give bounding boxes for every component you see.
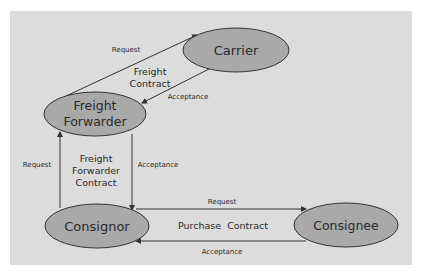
node-freight-forwarder-label-line2: Forwarder	[63, 114, 127, 129]
edge-label-ff-to-consignor: Acceptance	[138, 161, 179, 169]
edge-label-consignee-to-consignor: Acceptance	[202, 248, 243, 256]
node-consignor: Consignor	[45, 204, 149, 248]
contract-label-ff-line2: Forwarder	[72, 165, 120, 176]
contract-label-ff-line3: Contract	[76, 177, 117, 188]
edge-label-consignor-to-ff: Request	[23, 161, 52, 169]
node-freight-forwarder-label-line1: Freight	[73, 98, 116, 113]
edge-label-ff-to-carrier: Request	[112, 46, 141, 54]
node-carrier: Carrier	[183, 28, 289, 72]
node-consignee: Consignee	[294, 203, 398, 247]
node-carrier-label: Carrier	[214, 43, 259, 58]
contract-label-purchase: Purchase Contract	[178, 220, 268, 231]
contract-label-ff-line1: Freight	[80, 153, 113, 164]
diagram-canvas: Carrier Freight Forwarder Consignor Cons…	[0, 0, 422, 275]
edge-label-consignor-to-consignee: Request	[208, 198, 237, 206]
edge-label-carrier-to-ff: Acceptance	[168, 93, 209, 101]
contract-label-freight-line2: Contract	[130, 78, 171, 89]
node-consignee-label: Consignee	[313, 218, 379, 233]
node-consignor-label: Consignor	[64, 219, 130, 234]
node-freight-forwarder: Freight Forwarder	[44, 92, 146, 136]
contract-label-freight-line1: Freight	[134, 66, 167, 77]
